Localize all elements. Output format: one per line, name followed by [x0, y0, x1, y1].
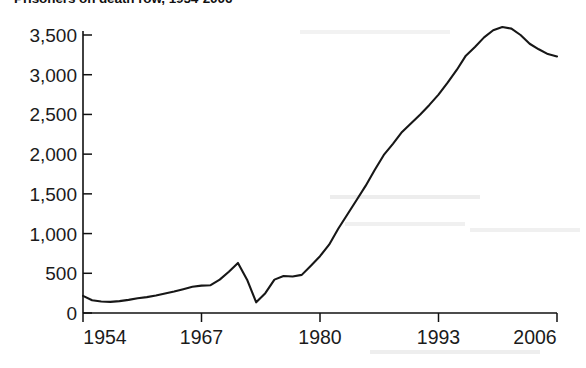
y-tick-label: 3,500 — [29, 25, 77, 46]
y-tick-label: 3,000 — [29, 65, 77, 86]
y-tick-label: 0 — [66, 303, 77, 324]
data-series-line — [83, 27, 557, 302]
y-axis: 05001,0001,5002,0002,5003,0003,500 — [29, 25, 92, 324]
chart-figure: Prisoners on death row, 1954-2006 05001,… — [0, 0, 586, 368]
x-tick-label: 1967 — [180, 326, 223, 348]
y-tick-label: 2,000 — [29, 144, 77, 165]
x-tick-label: 2006 — [513, 326, 556, 348]
x-tick-label: 1954 — [83, 326, 127, 348]
y-tick-label: 2,500 — [29, 104, 77, 125]
y-tick-label: 1,000 — [29, 224, 77, 245]
chart-plot-area: 05001,0001,5002,0002,5003,0003,500 19541… — [0, 0, 586, 368]
x-axis: 19541967198019932006 — [83, 313, 557, 348]
y-tick-label: 1,500 — [29, 184, 77, 205]
y-tick-label: 500 — [45, 263, 77, 284]
x-tick-label: 1993 — [417, 326, 460, 348]
x-tick-label: 1980 — [298, 326, 342, 348]
